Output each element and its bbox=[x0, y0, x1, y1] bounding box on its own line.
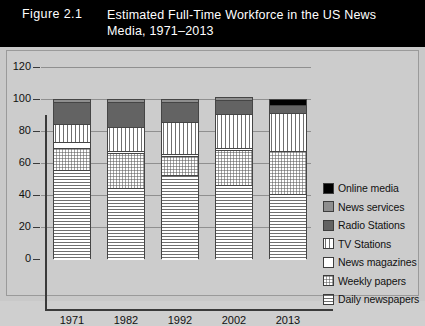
legend-item: News services bbox=[323, 198, 419, 217]
bar-segment-tv-stations bbox=[270, 113, 306, 151]
legend-label: News services bbox=[338, 201, 404, 213]
bar-segment-daily-newspapers bbox=[216, 185, 252, 260]
figure-caption: Estimated Full-Time Workforce in the US … bbox=[107, 7, 407, 39]
chart-panel: 020406080100120 19711982199220022013 Onl… bbox=[6, 50, 419, 296]
x-axis-tick-label: 2002 bbox=[204, 314, 264, 326]
legend-label: Online media bbox=[338, 182, 399, 194]
y-axis-tick-label: 60 bbox=[0, 156, 31, 168]
legend-swatch-icon bbox=[323, 257, 334, 268]
y-tick-mark bbox=[33, 227, 40, 228]
bar-segment-radio-stations bbox=[162, 102, 198, 123]
legend-label: TV Stations bbox=[338, 238, 391, 250]
x-axis-tick-label: 1982 bbox=[96, 314, 156, 326]
legend-item: Radio Stations bbox=[323, 216, 419, 235]
bar-segment-tv-stations bbox=[54, 124, 90, 142]
plot-area bbox=[41, 67, 311, 259]
legend-swatch-icon bbox=[323, 238, 334, 249]
bar-segment-weekly-papers bbox=[216, 150, 252, 185]
y-tick-mark bbox=[33, 67, 40, 68]
y-axis-tick-label: 40 bbox=[0, 188, 31, 200]
x-axis-tick-label: 2013 bbox=[258, 314, 318, 326]
y-tick-mark bbox=[33, 131, 40, 132]
legend-swatch-icon bbox=[323, 201, 334, 212]
legend-item: Online media bbox=[323, 179, 419, 198]
bar-1982 bbox=[107, 99, 145, 259]
bar-segment-radio-stations bbox=[54, 102, 90, 124]
y-axis-tick-label: 100 bbox=[0, 92, 31, 104]
bar-segment-daily-newspapers bbox=[270, 194, 306, 260]
legend-item: TV Stations bbox=[323, 235, 419, 254]
bar-segment-radio-stations bbox=[108, 102, 144, 128]
legend-item: Weekly papers bbox=[323, 272, 419, 291]
bar-segment-radio-stations bbox=[270, 105, 306, 113]
y-tick-mark bbox=[33, 195, 40, 196]
y-tick-mark bbox=[33, 99, 40, 100]
y-axis-tick-label: 0 bbox=[0, 252, 31, 264]
bar-segment-tv-stations bbox=[108, 127, 144, 151]
bar-2013 bbox=[269, 99, 307, 259]
bar-segment-daily-newspapers bbox=[162, 175, 198, 260]
bar-segment-radio-stations bbox=[216, 100, 252, 114]
legend-swatch-icon bbox=[323, 183, 334, 194]
legend-label: Daily newspapers bbox=[338, 293, 419, 305]
y-axis-tick-label: 20 bbox=[0, 220, 31, 232]
bar-segment-daily-newspapers bbox=[54, 170, 90, 260]
bar-segment-daily-newspapers bbox=[108, 188, 144, 260]
bar-1992 bbox=[161, 99, 199, 259]
bar-segment-weekly-papers bbox=[108, 153, 144, 188]
legend-swatch-icon bbox=[323, 294, 334, 305]
bar-segment-weekly-papers bbox=[54, 148, 90, 170]
legend-item: Daily newspapers bbox=[323, 290, 419, 309]
legend-swatch-icon bbox=[323, 220, 334, 231]
legend-label: News magazines bbox=[338, 256, 417, 268]
y-axis-tick-label: 120 bbox=[0, 60, 31, 72]
x-axis-tick-label: 1971 bbox=[42, 314, 102, 326]
bar-segment-tv-stations bbox=[216, 114, 252, 148]
bar-segment-weekly-papers bbox=[270, 151, 306, 194]
y-axis-tick-label: 80 bbox=[0, 124, 31, 136]
bar-segment-tv-stations bbox=[162, 122, 198, 154]
bar-2002 bbox=[215, 97, 253, 259]
legend-label: Weekly papers bbox=[338, 275, 406, 287]
figure-number: Figure 2.1 bbox=[22, 7, 82, 21]
bar-segment-weekly-papers bbox=[162, 156, 198, 175]
x-axis-line bbox=[45, 309, 333, 311]
figure-title-banner: Figure 2.1 Estimated Full-Time Workforce… bbox=[0, 0, 425, 47]
legend-swatch-icon bbox=[323, 275, 334, 286]
x-axis-tick-label: 1992 bbox=[150, 314, 210, 326]
bar-1971 bbox=[53, 99, 91, 259]
chart-legend: Online mediaNews servicesRadio StationsT… bbox=[323, 179, 419, 309]
y-tick-mark bbox=[33, 163, 40, 164]
legend-label: Radio Stations bbox=[338, 219, 405, 231]
y-tick-mark bbox=[33, 259, 40, 260]
legend-item: News magazines bbox=[323, 253, 419, 272]
